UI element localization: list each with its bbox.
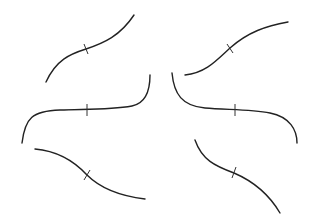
- curve-bottom-left: [35, 149, 145, 199]
- curve-group-4: [35, 149, 145, 199]
- curve-top-left: [46, 15, 134, 82]
- curve-top-right: [185, 22, 288, 75]
- curve-group-5: [195, 140, 280, 213]
- curve-middle-left: [22, 75, 150, 143]
- tick-mark-bottom-left: [84, 170, 90, 180]
- curve-bottom-right: [195, 140, 280, 213]
- curves-diagram: [0, 0, 309, 216]
- curve-group-3: [172, 73, 297, 143]
- curve-group-1: [185, 22, 288, 75]
- curve-group-0: [46, 15, 134, 82]
- curve-group-2: [22, 75, 150, 143]
